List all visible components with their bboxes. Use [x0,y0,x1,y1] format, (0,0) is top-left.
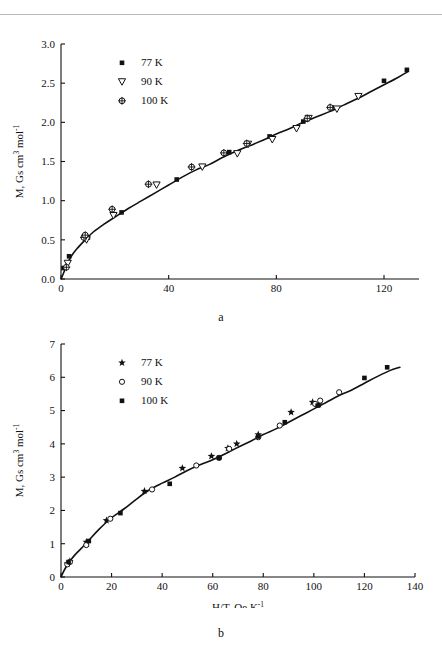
data-point-a-0-5 [227,150,232,155]
data-point-b-1-5 [194,463,199,468]
chart-panel-b: 02040608010012014001234567 77 K90 K100 K… [0,330,442,648]
data-point-b-0-6 [208,452,216,459]
plot-area-b: 02040608010012014001234567 77 K90 K100 K… [0,330,442,608]
data-point-b-2-8 [362,376,367,381]
x-tick-label-b-0: 0 [58,580,64,592]
data-point-b-1-11 [318,398,323,403]
y-tick-label-b-0: 0 [50,571,56,583]
axes-group-a: 040801200.00.51.01.52.02.53.0 [41,38,419,292]
data-point-a-1-7 [269,137,276,143]
fit-curve-path-a [61,71,408,279]
legend-item-b-2: 100 K [120,394,169,406]
data-point-a-2-5 [188,163,196,171]
legend-label-b-1: 90 K [141,375,163,387]
panel-letter-a: a [0,310,442,325]
data-point-b-2-4 [217,456,222,461]
y-tick-label-b-6: 6 [50,371,56,383]
y-tick-label-b-4: 4 [50,438,56,450]
data-point-b-2-0 [66,560,71,565]
legend-label-a-2: 100 K [141,94,168,106]
chart-svg-b: 02040608010012014001234567 77 K90 K100 K… [0,330,442,608]
data-point-a-0-3 [119,210,124,215]
y-tick-label-a-2: 1.0 [41,194,55,206]
data-point-b-2-6 [282,420,287,425]
legend-item-a-2: 100 K [118,94,168,106]
y-tick-label-b-5: 5 [50,404,56,416]
data-point-a-1-5 [234,151,241,157]
data-point-b-1-4 [149,487,154,492]
x-tick-label-b-6: 120 [356,580,373,592]
data-point-b-2-1 [87,539,92,544]
data-point-b-2-3 [167,482,172,487]
legend-label-b-0: 77 K [141,356,163,368]
fit-curve-a [61,71,408,279]
series-a-1 [64,93,362,266]
y-tick-label-b-3: 3 [50,471,56,483]
y-axis-title-a: M, Gs cm3 mol-1 [12,124,25,198]
data-point-a-1-8 [293,126,300,132]
data-point-a-0-1 [67,254,72,259]
x-tick-label-a-1: 40 [163,282,175,292]
y-tick-label-a-6: 3.0 [41,38,55,50]
data-point-b-2-9 [385,365,390,370]
legend-marker-b-1 [119,379,124,384]
x-tick-label-b-1: 20 [106,580,118,592]
y-tick-label-a-4: 2.0 [41,116,55,128]
x-tick-label-a-3: 120 [376,282,393,292]
legend-marker-a-1 [118,79,125,85]
legend-item-a-0: 77 K [120,56,163,68]
data-point-b-1-12 [337,390,342,395]
x-tick-label-b-3: 60 [207,580,219,592]
data-point-b-2-7 [315,403,320,408]
chart-svg-a: 040801200.00.51.01.52.02.53.0 77 K90 K10… [0,14,442,292]
legend-item-b-1: 90 K [119,375,162,387]
data-point-a-0-10 [405,68,410,73]
plot-area-a: 040801200.00.51.01.52.02.53.0 77 K90 K10… [0,14,442,292]
legend-label-b-2: 100 K [141,394,168,406]
x-tick-label-a-0: 0 [58,282,64,292]
y-tick-label-a-3: 1.5 [41,155,55,167]
x-tick-label-b-5: 100 [306,580,323,592]
fit-curve-b [61,367,400,577]
axis-labels-a: H/T, Oe K-1M, Gs cm3 mol-1 [12,124,266,292]
x-axis-title-b: H/T, Oe K-1 [212,600,264,608]
y-tick-label-b-1: 1 [50,538,56,550]
x-tick-label-b-2: 40 [157,580,169,592]
y-tick-label-b-2: 2 [50,504,56,516]
legend-marker-a-2 [118,97,126,105]
series-a-2 [62,104,334,272]
data-point-a-0-4 [174,177,179,182]
legend-marker-b-2 [120,399,125,404]
y-tick-label-b-7: 7 [50,338,56,350]
data-point-b-2-5 [256,434,261,439]
x-tick-label-b-7: 140 [407,580,424,592]
legend-item-a-1: 90 K [118,75,162,87]
data-point-a-0-9 [382,79,387,84]
data-point-b-2-2 [118,511,123,516]
legend-marker-b-0 [118,359,126,366]
data-point-a-2-4 [145,180,153,188]
legend-item-b-0: 77 K [118,356,163,368]
fit-curve-path-b [61,367,400,577]
chart-panel-a: 040801200.00.51.01.52.02.53.0 77 K90 K10… [0,14,442,330]
legend-b: 77 K90 K100 K [118,356,168,406]
legend-marker-a-0 [120,61,125,66]
data-point-b-0-5 [179,464,187,471]
axes-group-b: 02040608010012014001234567 [50,338,424,592]
data-points-a [61,68,409,272]
x-tick-label-a-2: 80 [271,282,283,292]
y-axis-title-b: M, Gs cm3 mol-1 [12,423,25,497]
legend-a: 77 K90 K100 K [118,56,168,106]
data-point-b-1-9 [277,423,282,428]
x-tick-label-b-4: 80 [258,580,270,592]
y-tick-label-a-0: 0.0 [41,273,55,285]
data-point-b-0-10 [287,408,295,415]
panel-letter-b: b [0,626,442,641]
data-point-b-1-3 [108,516,113,521]
data-point-b-1-7 [227,446,232,451]
y-tick-label-a-5: 2.5 [41,77,55,89]
y-tick-label-a-1: 0.5 [41,234,55,246]
data-point-a-1-3 [153,182,160,188]
legend-label-a-1: 90 K [141,75,163,87]
legend-label-a-0: 77 K [141,56,163,68]
